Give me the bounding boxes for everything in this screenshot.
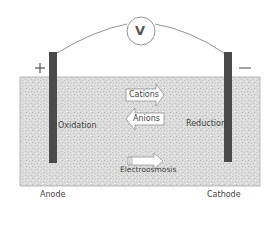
electroosmosis-label: Electroosmosis <box>120 165 176 174</box>
anode-label: Anode <box>40 190 65 199</box>
circuit-wire-right <box>155 24 224 53</box>
anode-electrode <box>49 52 57 163</box>
cations-label: Cations <box>129 90 159 99</box>
voltmeter-label: V <box>135 23 145 38</box>
anions-label: Anions <box>133 114 160 123</box>
anode-process-label: Oxidation <box>58 121 97 130</box>
cathode-electrode <box>224 52 232 162</box>
cathode-label: Cathode <box>207 190 241 199</box>
cathode-process-label: Reduction <box>186 119 226 128</box>
circuit-wire-left <box>57 24 127 53</box>
